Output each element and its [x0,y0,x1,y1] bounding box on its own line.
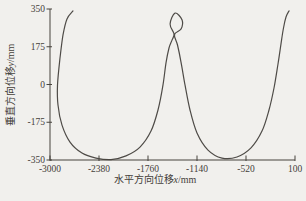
axis-ticks: -3000-2380-1760-1140-5201003501750-175-3… [28,4,303,173]
x-axis-title-text: 水平方向位移 [114,173,174,185]
y-axis-unit: /mm [5,43,16,62]
x-tick-label: -1760 [137,164,159,174]
x-axis-unit: /mm [178,174,197,185]
trajectory-curve [57,11,289,160]
y-tick-label: 350 [31,4,46,14]
x-tick-label: -2380 [88,164,110,174]
x-tick-label: -520 [237,164,255,174]
chart-canvas: -3000-2380-1760-1140-5201003501750-175-3… [0,0,306,201]
y-tick-label: -350 [28,155,46,165]
y-tick-label: -175 [28,117,46,127]
displacement-trajectory-figure: -3000-2380-1760-1140-5201003501750-175-3… [0,0,306,201]
y-axis-title: 垂直方向位移y/mm [4,43,16,126]
x-tick-label: 100 [288,164,303,174]
y-tick-label: 175 [31,42,46,52]
y-tick-label: 0 [40,80,45,90]
y-axis-title-text: 垂直方向位移 [4,66,16,126]
x-tick-label: -1140 [186,164,208,174]
x-axis-title: 水平方向位移x/mm [114,173,197,185]
